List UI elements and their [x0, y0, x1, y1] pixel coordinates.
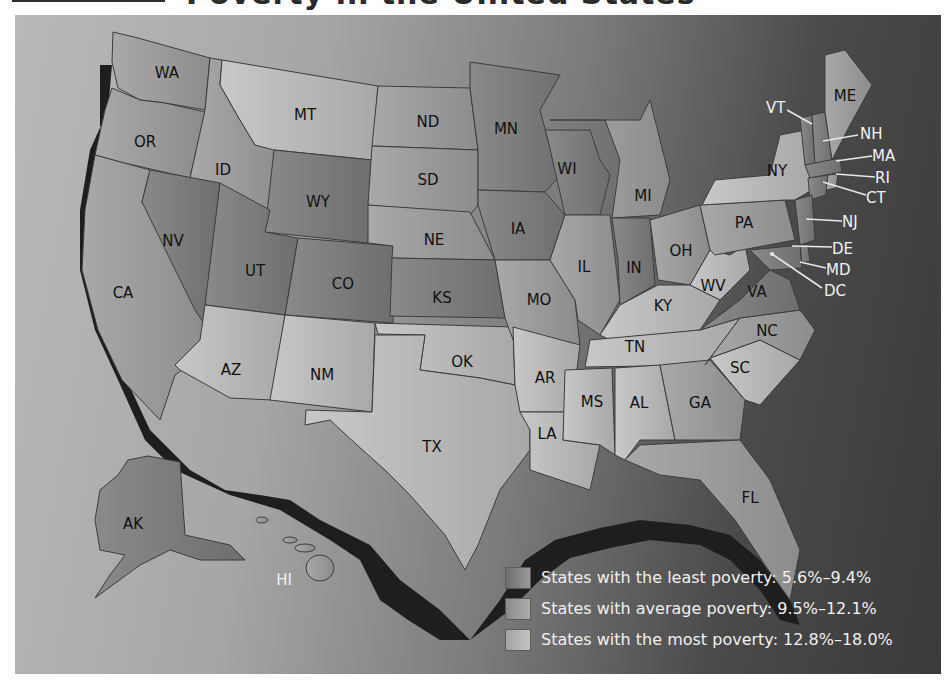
label-ms: MS — [581, 393, 603, 411]
label-dc: DC — [824, 282, 846, 300]
label-pa: PA — [735, 214, 754, 232]
label-nj: NJ — [842, 213, 858, 231]
state-ri[interactable] — [826, 174, 838, 190]
label-nh: NH — [860, 125, 883, 143]
label-ok: OK — [451, 353, 474, 371]
state-ny[interactable] — [702, 130, 812, 205]
label-ky: KY — [654, 297, 673, 315]
label-vt: VT — [766, 99, 786, 117]
state-ak[interactable] — [95, 456, 245, 598]
label-ma: MA — [872, 147, 896, 165]
legend-item-average: States with average poverty: 9.5%–12.1% — [505, 593, 893, 624]
legend-item-least: States with the least poverty: 5.6%–9.4% — [505, 562, 893, 593]
label-mt: MT — [294, 106, 317, 124]
label-mn: MN — [494, 120, 518, 138]
label-ia: IA — [511, 220, 526, 238]
label-nv: NV — [162, 232, 184, 250]
label-tn: TN — [624, 338, 645, 356]
label-ga: GA — [689, 394, 712, 412]
label-co: CO — [332, 275, 354, 293]
leader-md — [800, 262, 826, 268]
label-ne: NE — [424, 231, 445, 249]
map-legend: States with the least poverty: 5.6%–9.4%… — [505, 562, 893, 655]
label-or: OR — [134, 133, 156, 151]
label-mo: MO — [527, 291, 552, 309]
label-tx: TX — [421, 438, 441, 456]
figure-title: Poverty in the United States — [186, 0, 696, 11]
dc-marker — [770, 252, 774, 256]
label-in: IN — [626, 259, 642, 277]
label-ri: RI — [875, 169, 890, 187]
state-me[interactable] — [825, 50, 872, 160]
label-nc: NC — [756, 322, 778, 340]
figure-title-strip: Poverty in the United States — [0, 0, 948, 6]
label-ak: AK — [123, 515, 144, 533]
label-nd: ND — [417, 113, 440, 131]
leader-ri — [836, 174, 875, 177]
label-nm: NM — [310, 366, 334, 384]
label-id: ID — [215, 161, 231, 179]
label-ut: UT — [245, 262, 266, 280]
label-sc: SC — [730, 359, 750, 377]
legend-item-most: States with the most poverty: 12.8%–18.0… — [505, 624, 893, 655]
label-de: DE — [832, 240, 853, 258]
legend-swatch-least — [505, 567, 531, 589]
label-md: MD — [826, 261, 851, 279]
label-la: LA — [538, 425, 558, 443]
leader-de — [792, 246, 832, 247]
label-ct: CT — [866, 189, 886, 207]
us-poverty-map: WA OR CA ID NV MT WY UT AZ CO NM ND SD N… — [15, 15, 941, 674]
label-ks: KS — [432, 289, 451, 307]
label-mi: MI — [634, 187, 651, 205]
label-az: AZ — [221, 361, 242, 379]
label-ny: NY — [767, 162, 788, 180]
title-bar-decoration — [12, 0, 165, 2]
legend-label-average: States with average poverty: 9.5%–12.1% — [541, 599, 877, 618]
label-wv: WV — [700, 277, 726, 295]
legend-swatch-average — [505, 598, 531, 620]
legend-swatch-most — [505, 629, 531, 651]
label-fl: FL — [742, 489, 760, 507]
label-wy: WY — [306, 193, 331, 211]
label-al: AL — [630, 394, 649, 412]
label-va: VA — [747, 283, 767, 301]
legend-label-least: States with the least poverty: 5.6%–9.4% — [541, 568, 871, 587]
label-wa: WA — [155, 64, 180, 82]
label-wi: WI — [557, 160, 576, 178]
label-ar: AR — [535, 369, 556, 387]
label-me: ME — [834, 87, 856, 105]
label-oh: OH — [669, 242, 692, 260]
label-il: IL — [578, 258, 591, 276]
state-nm[interactable] — [270, 315, 375, 412]
label-sd: SD — [417, 171, 438, 189]
legend-label-most: States with the most poverty: 12.8%–18.0… — [541, 630, 893, 649]
label-ca: CA — [113, 284, 134, 302]
label-hi: HI — [276, 571, 292, 589]
leader-ma — [836, 156, 872, 161]
